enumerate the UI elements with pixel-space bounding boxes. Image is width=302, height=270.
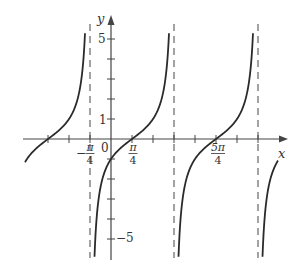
x-tick-label-5pi-over-4: 5π4	[211, 141, 226, 167]
fraction-numerator: π	[128, 141, 137, 154]
x-tick-label-neg-pi-over-4: −π4	[76, 141, 95, 167]
y-tick-label-1: 1	[99, 113, 107, 127]
axes	[23, 15, 288, 260]
origin-label: 0	[101, 141, 109, 155]
x-axis-arrow-icon	[279, 136, 288, 143]
fraction-denominator: 4	[130, 154, 137, 167]
tangent-graph: yx51−50−π4π45π4	[0, 0, 302, 270]
x-tick-label-pi-over-4: π4	[128, 141, 137, 167]
fraction-numerator: 5π	[211, 141, 226, 154]
fraction-numerator: π	[85, 141, 94, 154]
fraction-denominator: 4	[215, 154, 222, 167]
x-axis-label: x	[278, 146, 286, 161]
fraction-denominator: 4	[87, 154, 94, 167]
y-axis-arrow-icon	[108, 15, 115, 25]
y-tick-label-neg5: −5	[116, 231, 134, 245]
curve-branch-0	[25, 33, 85, 162]
curve-branch-3	[263, 161, 279, 257]
y-axis-label: y	[96, 11, 105, 26]
curve-branches	[25, 33, 278, 256]
y-tick-label-5: 5	[98, 32, 106, 46]
fraction-sign: −	[76, 146, 86, 160]
